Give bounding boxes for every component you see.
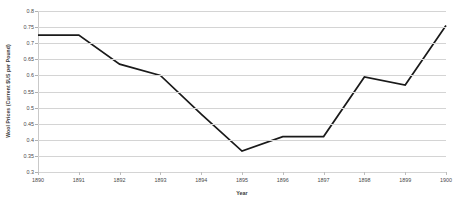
x-axis-tick-label: 1892 xyxy=(100,176,140,184)
x-axis-tick-mark xyxy=(79,172,80,175)
y-axis-tick-mark xyxy=(35,108,38,109)
x-axis-title: Year xyxy=(38,189,446,197)
gridline xyxy=(38,59,446,60)
wool-prices-line-chart: Wool Prices (Current $US per Pound) 0.30… xyxy=(0,0,453,209)
x-axis-tick-label: 1895 xyxy=(222,176,262,184)
y-axis-tick-mark xyxy=(35,124,38,125)
x-axis-tick-label: 1890 xyxy=(18,176,58,184)
gridline xyxy=(38,108,446,109)
x-axis-tick-mark xyxy=(38,172,39,175)
y-axis-tick-mark xyxy=(35,75,38,76)
x-axis-tick-label: 1891 xyxy=(59,176,99,184)
y-axis-tick-label: 0.55 xyxy=(12,89,34,95)
x-axis-tick-mark xyxy=(364,172,365,175)
y-axis-tick-label: 0.6 xyxy=(12,72,34,78)
y-axis-tick-mark xyxy=(35,27,38,28)
y-axis-tick-label: 0.7 xyxy=(12,40,34,46)
x-axis-tick-mark xyxy=(405,172,406,175)
gridline xyxy=(38,75,446,76)
y-axis-tick-mark xyxy=(35,11,38,12)
x-axis-tick-mark xyxy=(324,172,325,175)
y-axis-tick-label: 0.3 xyxy=(12,169,34,175)
y-axis-tick-mark xyxy=(35,156,38,157)
y-axis-tick-label: 0.65 xyxy=(12,56,34,62)
gridline xyxy=(38,156,446,157)
y-axis-tick-mark xyxy=(35,59,38,60)
gridline xyxy=(38,124,446,125)
x-axis-tick-label: 1897 xyxy=(304,176,344,184)
x-axis-tick-labels: 1890189118921893189418951896189718981899… xyxy=(38,176,446,188)
y-axis-tick-label: 0.35 xyxy=(12,153,34,159)
x-axis-tick-label: 1894 xyxy=(181,176,221,184)
x-axis-tick-mark xyxy=(160,172,161,175)
gridline xyxy=(38,11,446,12)
y-axis-tick-label: 0.5 xyxy=(12,105,34,111)
x-axis-tick-label: 1900 xyxy=(426,176,453,184)
y-axis-tick-label: 0.4 xyxy=(12,137,34,143)
y-axis-tick-label: 0.8 xyxy=(12,8,34,14)
x-axis-tick-mark xyxy=(446,172,447,175)
x-axis-tick-mark xyxy=(283,172,284,175)
x-axis-tick-mark xyxy=(242,172,243,175)
x-axis-tick-label: 1896 xyxy=(263,176,303,184)
y-axis-tick-label: 0.45 xyxy=(12,121,34,127)
x-axis-tick-label: 1899 xyxy=(385,176,425,184)
y-axis-tick-mark xyxy=(35,43,38,44)
x-axis-tick-mark xyxy=(120,172,121,175)
x-axis-tick-label: 1893 xyxy=(140,176,180,184)
gridline xyxy=(38,27,446,28)
x-axis-tick-mark xyxy=(201,172,202,175)
gridline xyxy=(38,140,446,141)
gridline xyxy=(38,92,446,93)
gridline xyxy=(38,43,446,44)
y-axis-tick-label: 0.75 xyxy=(12,24,34,30)
y-axis-tick-mark xyxy=(35,92,38,93)
y-axis-tick-mark xyxy=(35,140,38,141)
x-axis-tick-label: 1898 xyxy=(344,176,384,184)
plot-area xyxy=(38,11,446,172)
